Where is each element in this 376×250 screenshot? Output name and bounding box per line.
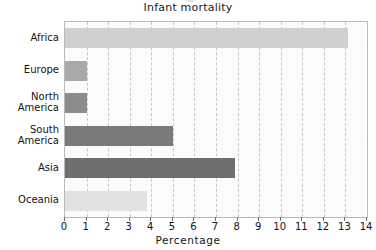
bar-asia[interactable] — [65, 158, 235, 178]
x-tick-label-9: 9 — [247, 221, 269, 232]
x-tick-label-13: 13 — [333, 221, 355, 232]
x-tick-label-7: 7 — [204, 221, 226, 232]
bar-row — [65, 158, 367, 178]
bar-row — [65, 126, 367, 146]
x-tick-label-12: 12 — [312, 221, 334, 232]
gridline-4 — [151, 22, 152, 217]
x-tick-label-11: 11 — [290, 221, 312, 232]
x-tick-label-14: 14 — [355, 221, 376, 232]
y-tick-label-oceania: Oceania — [18, 194, 64, 205]
bar-europe[interactable] — [65, 61, 87, 81]
bar-row — [65, 61, 367, 81]
gridline-13 — [345, 22, 346, 217]
gridline-10 — [281, 22, 282, 217]
gridline-3 — [130, 22, 131, 217]
x-tick-label-8: 8 — [226, 221, 248, 232]
bar-oceania[interactable] — [65, 191, 147, 211]
gridline-11 — [302, 22, 303, 217]
x-tick-label-0: 0 — [53, 221, 75, 232]
x-tick-label-1: 1 — [75, 221, 97, 232]
bar-row — [65, 191, 367, 211]
y-tick-label-africa: Africa — [30, 32, 64, 43]
gridline-14 — [367, 22, 368, 217]
gridline-2 — [108, 22, 109, 217]
gridline-8 — [238, 22, 239, 217]
x-tick-label-4: 4 — [139, 221, 161, 232]
gridline-6 — [194, 22, 195, 217]
gridline-5 — [173, 22, 174, 217]
gridline-9 — [259, 22, 260, 217]
chart-container: Infant mortality 01234567891011121314 Af… — [0, 0, 376, 250]
y-tick-label-asia: Asia — [38, 162, 64, 173]
bar-south-america[interactable] — [65, 126, 173, 146]
x-tick-label-10: 10 — [269, 221, 291, 232]
x-tick-label-5: 5 — [161, 221, 183, 232]
x-tick-label-6: 6 — [182, 221, 204, 232]
y-tick-label-south-america: South America — [18, 124, 64, 146]
chart-title: Infant mortality — [0, 1, 376, 14]
bar-africa[interactable] — [65, 28, 348, 48]
bar-row — [65, 28, 367, 48]
y-tick-label-europe: Europe — [24, 64, 64, 75]
gridline-7 — [216, 22, 217, 217]
bar-row — [65, 93, 367, 113]
bar-north-america[interactable] — [65, 93, 87, 113]
plot-area — [64, 21, 368, 218]
gridline-1 — [87, 22, 88, 217]
x-tick-label-2: 2 — [96, 221, 118, 232]
gridline-12 — [324, 22, 325, 217]
x-tick-label-3: 3 — [118, 221, 140, 232]
y-tick-label-north-america: North America — [18, 91, 64, 113]
x-axis-title: Percentage — [0, 234, 376, 246]
plot-inner — [65, 22, 367, 217]
